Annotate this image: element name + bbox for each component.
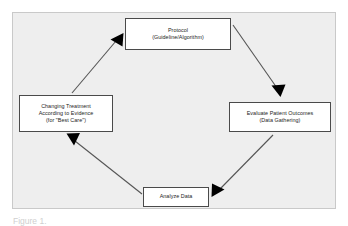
node-changing-line-3: (for "Best Care") [46,117,86,124]
arrow-shaft [233,25,277,88]
node-analyze-data: Analyze Data [143,187,209,207]
figure-panel: Protocol (Guideline/Algorithm) Evaluate … [12,12,336,209]
arrow-protocol-to-evaluate [233,25,286,97]
arrow-changing-to-protocol [72,33,124,93]
node-protocol-line-1: Protocol [168,27,188,34]
arrow-shaft [75,141,142,194]
arrowhead [212,184,225,198]
arrow-analyze-to-changing [67,133,143,194]
node-changing-treatment: Changing Treatment According to Evidence… [19,95,113,132]
node-analyze-line-1: Analyze Data [160,193,193,200]
arrowhead [272,85,286,98]
arrow-shaft [72,41,116,93]
arrow-shaft [220,135,273,189]
figure-caption: Figure 1. [13,216,313,226]
node-protocol: Protocol (Guideline/Algorithm) [125,18,231,50]
node-evaluate-line-2: (Data Gathering) [260,117,301,124]
node-changing-line-2: According to Evidence [39,110,94,117]
node-evaluate-patient-outcomes: Evaluate Patient Outcomes (Data Gatherin… [229,102,331,132]
figure-page: Protocol (Guideline/Algorithm) Evaluate … [0,0,348,226]
node-changing-line-1: Changing Treatment [41,103,91,110]
node-evaluate-line-1: Evaluate Patient Outcomes [247,110,314,117]
node-protocol-line-2: (Guideline/Algorithm) [152,34,204,41]
arrow-evaluate-to-analyze [212,135,274,197]
